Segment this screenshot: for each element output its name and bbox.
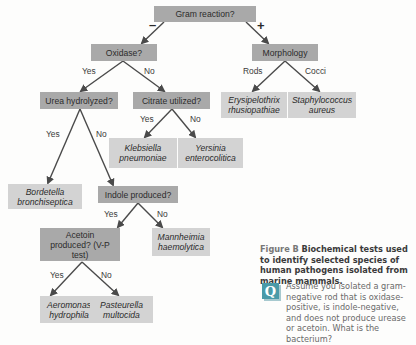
edge-label-acetoin-no: No (101, 270, 112, 280)
node-gram-reaction: Gram reaction? (154, 6, 256, 22)
node-erysipelothrix: Erysipelothrix rhusiopathiae (221, 92, 287, 118)
node-urea-hydrolyzed: Urea hydrolyzed? (40, 92, 118, 109)
node-oxidase: Oxidase? (91, 44, 157, 61)
edge-label-citrate-no: No (190, 114, 201, 124)
edge-label-urea-yes: Yes (46, 129, 60, 139)
arrow-indole-yes (118, 203, 138, 227)
question-text: Assume you isolated a gram-negative rod … (286, 281, 416, 345)
edge-label-morph-rods: Rods (243, 66, 263, 76)
edge-label-indole-yes: Yes (104, 209, 118, 219)
node-citrate-utilized: Citrate utilized? (133, 92, 210, 109)
edge-label-gram-positive: + (257, 18, 265, 33)
node-klebsiella: Klebsiella pneumoniae (109, 138, 177, 168)
edge-label-indole-no: No (157, 209, 168, 219)
arrow-acetoin-no (82, 262, 118, 295)
node-yersinia: Yersinia enterocolitica (178, 138, 243, 168)
figure-label: Figure B (260, 244, 299, 254)
edge-label-urea-no: No (96, 129, 107, 139)
edge-label-acetoin-yes: Yes (50, 270, 64, 280)
node-bordetella: Bordetella bronchiseptica (8, 184, 82, 209)
edge-label-oxidase-yes: Yes (82, 66, 96, 76)
edge-label-morph-cocci: Cocci (305, 66, 326, 76)
arrow-urea-yes (48, 109, 80, 183)
edge-label-oxidase-no: No (144, 66, 155, 76)
edge-label-gram-negative: – (149, 17, 156, 32)
edge-label-citrate-yes: Yes (140, 114, 154, 124)
node-staphylococcus: Staphylococcus aureus (288, 92, 356, 118)
node-morphology: Morphology (252, 44, 318, 61)
node-acetoin-produced: Acetoin produced? (V-P test) (40, 228, 120, 261)
node-mannheimia: Mannheimia haemolytica (152, 228, 210, 256)
node-indole-produced: Indole produced? (98, 186, 178, 203)
question-icon: Q (262, 283, 279, 299)
node-pasteurella: Pasteurella multocida (90, 296, 153, 323)
